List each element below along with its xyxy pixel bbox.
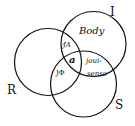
label-I: I [110,5,115,19]
label-R: R [7,83,17,97]
region-j-phi: JΦ [55,69,65,77]
label-S: S [115,98,123,112]
region-jouissance-2: sense [87,70,107,78]
region-body: Body [78,25,105,36]
region-jouissance-1: joui- [84,57,102,65]
circle-symbolic [51,51,117,117]
region-a: a [69,54,75,65]
venn-diagram: I R S Body J̸A a JΦ joui- sense [0,0,135,126]
